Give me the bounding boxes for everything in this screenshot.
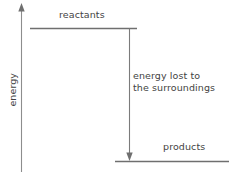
energy-axis-arrowhead-icon	[18, 3, 24, 12]
energy-axis-label: energy	[7, 68, 19, 112]
energy-lost-arrowhead-icon	[126, 153, 132, 162]
energy-axis	[18, 3, 24, 172]
products-label: products	[163, 141, 205, 153]
reactants-label: reactants	[59, 9, 105, 21]
energy-lost-arrow	[126, 29, 132, 162]
energy-lost-label: energy lost to the surroundings	[133, 70, 219, 93]
energy-level-diagram: energy reactants energy lost to the surr…	[0, 0, 229, 178]
